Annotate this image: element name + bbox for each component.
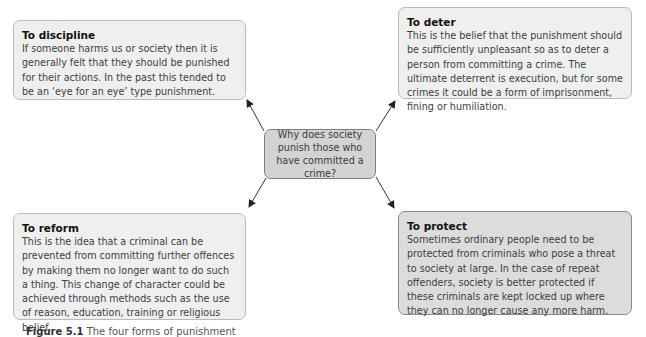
box-body: If someone harms us or society then it i… (22, 42, 237, 99)
box-protect: To protect Sometimes ordinary people nee… (398, 211, 632, 315)
box-reform: To reform This is the idea that a crimin… (13, 213, 246, 320)
figure-caption-text: The four forms of punishment (87, 326, 236, 337)
box-title: To protect (407, 219, 623, 233)
central-question: Why does society punish those who have c… (264, 129, 376, 179)
box-body: This is the idea that a criminal can be … (22, 235, 237, 335)
box-title: To reform (22, 221, 237, 235)
box-deter: To deter This is the belief that the pun… (398, 7, 632, 99)
figure-label: Figure 5.1 (26, 326, 83, 337)
figure-caption: Figure 5.1 The four forms of punishment (26, 326, 236, 337)
box-title: To discipline (22, 28, 237, 42)
box-body: This is the belief that the punishment s… (407, 29, 623, 115)
box-body: Sometimes ordinary people need to be pro… (407, 233, 623, 319)
box-discipline: To discipline If someone harms us or soc… (13, 20, 246, 100)
box-title: To deter (407, 15, 623, 29)
